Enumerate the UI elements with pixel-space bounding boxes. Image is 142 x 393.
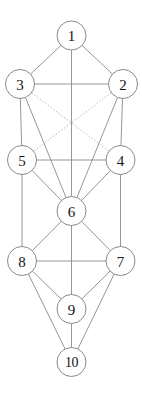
node-4[interactable]: 4	[106, 146, 135, 175]
node-label-5: 5	[18, 153, 26, 169]
edge-8-9	[32, 271, 61, 299]
node-2[interactable]: 2	[109, 70, 138, 99]
node-3[interactable]: 3	[6, 70, 35, 99]
edge-3-5	[20, 98, 21, 145]
node-6[interactable]: 6	[57, 197, 86, 226]
tree-of-life-diagram: 13254687910	[0, 0, 142, 393]
node-8[interactable]: 8	[8, 247, 37, 276]
node-label-7: 7	[117, 254, 125, 270]
edge-1-3	[31, 45, 61, 74]
node-label-3: 3	[16, 77, 24, 93]
node-5[interactable]: 5	[8, 146, 37, 175]
node-1[interactable]: 1	[57, 21, 86, 50]
node-label-8: 8	[18, 254, 26, 270]
edge-6-7	[82, 221, 111, 250]
node-9[interactable]: 9	[57, 295, 86, 324]
node-7[interactable]: 7	[106, 247, 135, 276]
node-label-4: 4	[117, 153, 125, 169]
node-10[interactable]: 10	[57, 348, 86, 377]
edge-7-9	[82, 271, 110, 299]
edge-3-4	[32, 93, 109, 152]
node-label-10: 10	[65, 355, 79, 370]
edge-6-8	[32, 221, 61, 250]
edge-3-6	[25, 97, 66, 197]
node-label-1: 1	[68, 28, 76, 44]
graph-canvas: 13254687910	[0, 0, 142, 393]
edge-2-4	[121, 98, 123, 145]
edge-1-2	[82, 45, 112, 74]
node-label-9: 9	[68, 302, 76, 318]
node-label-2: 2	[119, 77, 127, 93]
node-label-6: 6	[68, 204, 76, 220]
edge-2-6	[77, 97, 118, 197]
